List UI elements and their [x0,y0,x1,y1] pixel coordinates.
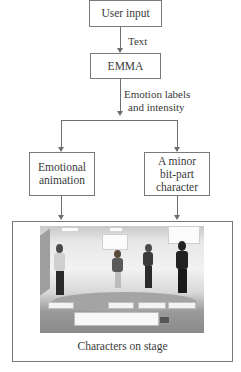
split-horizontal-line [61,120,178,121]
edge-label-emotion-line2: and intensity [128,101,185,114]
arrowhead-icon [174,215,180,220]
emotional-animation-node: Emotional animation [29,152,95,196]
user-input-node: User input [89,0,162,27]
edge-label-emotion-line1: Emotion labels [124,88,190,101]
emotional-animation-label: Emotional animation [38,161,86,187]
split-left-drop [61,120,62,148]
stage-caption: Characters on stage [12,340,233,352]
arrowhead-icon [117,111,123,116]
split-right-drop [177,120,178,148]
emma-node: EMMA [90,53,161,79]
connector-bitpart-stage [177,196,178,216]
stage-scene-image [40,226,204,333]
scene-send-button [159,316,170,324]
connector-emma-split [120,79,121,113]
connector-user-emma [120,27,121,49]
character-name-label [48,302,74,309]
scene-center-panel [102,234,128,250]
character-name-label [138,302,166,309]
emma-label: EMMA [108,60,144,73]
scene-wall [40,228,50,295]
arrowhead-icon [58,215,64,220]
edge-label-text: Text [128,35,147,48]
bit-part-character-label: A minor bit-part character [156,155,198,194]
connector-animation-stage [61,196,62,216]
user-input-label: User input [101,7,149,20]
bit-part-character-node: A minor bit-part character [144,152,210,196]
scene-top-light [62,228,78,231]
character-name-label [108,302,134,309]
scene-chat-input [74,312,159,326]
scene-top-light [110,228,122,231]
character-name-label [168,302,196,309]
